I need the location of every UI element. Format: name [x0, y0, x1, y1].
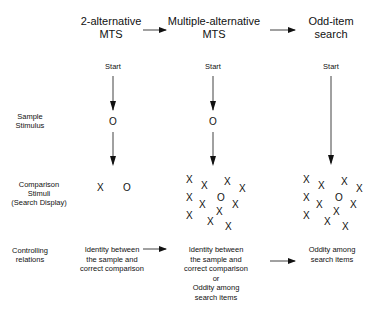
sample-stimulus-col1: O	[109, 117, 117, 127]
row-label-controlling-relations: Controlling relations	[8, 246, 52, 264]
comparison-x: X	[97, 183, 104, 193]
controlling-relation-multi-alt: Identity between the sample and correct …	[176, 245, 256, 302]
stage-two-alternative-mts: 2-alternative MTS	[66, 15, 156, 41]
stage-odd-item-search: Odd-item search	[296, 15, 366, 41]
start-label-col3: Start	[316, 62, 346, 71]
start-label-col1: Start	[98, 62, 128, 71]
controlling-relation-odd-item: Oddity among search items	[300, 245, 364, 264]
controlling-relation-two-alt: Identity between the sample and correct …	[72, 245, 152, 274]
stage-multiple-alternative-mts: Multiple-alternative MTS	[162, 15, 266, 41]
comparison-o: O	[123, 183, 131, 193]
sample-stimulus-col2: O	[209, 117, 217, 127]
row-label-comparison-stimuli: Comparison Stimuli (Search Display)	[4, 180, 74, 207]
row-label-sample-stimulus: Sample Stimulus	[10, 112, 50, 130]
start-label-col2: Start	[198, 62, 228, 71]
